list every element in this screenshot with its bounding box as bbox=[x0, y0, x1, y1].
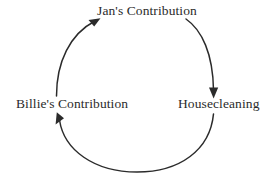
node-label-housecleaning: Housecleaning bbox=[178, 96, 260, 111]
edge-housecleaning-to-billie bbox=[60, 114, 214, 172]
edge-jan-to-housecleaning bbox=[186, 19, 214, 90]
causal-loop-svg bbox=[0, 0, 280, 188]
node-label-jan-contribution: Jan's Contribution bbox=[0, 3, 280, 18]
arrowhead-to-jan bbox=[89, 18, 101, 26]
edge-billie-to-jan bbox=[57, 21, 96, 96]
node-label-billie-contribution: Billie's Contribution bbox=[16, 96, 128, 111]
diagram-canvas: Jan's Contribution Housecleaning Billie'… bbox=[0, 0, 280, 188]
